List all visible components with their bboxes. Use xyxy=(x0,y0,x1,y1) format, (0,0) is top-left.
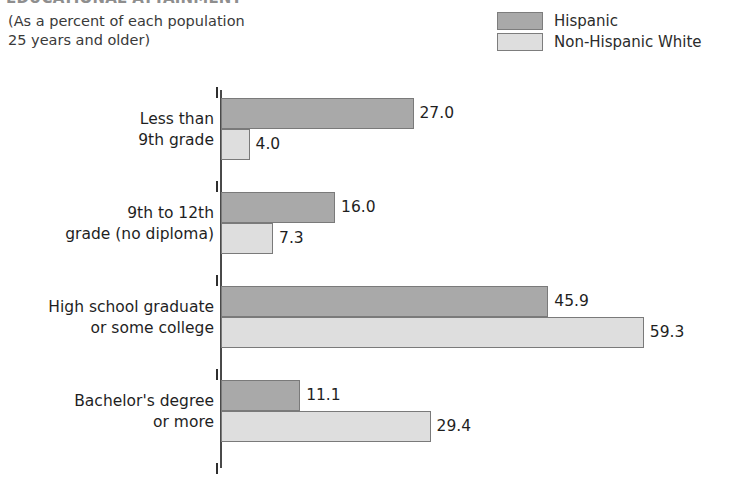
axis-tick xyxy=(216,275,218,286)
bar-0 xyxy=(221,286,548,317)
chart-plot-area: Less than 9th grade27.04.09th to 12th gr… xyxy=(0,0,733,483)
category-label: 9th to 12th grade (no diploma) xyxy=(65,203,214,245)
bar-1 xyxy=(221,317,644,348)
bar-1 xyxy=(221,223,273,254)
category-label: High school graduate or some college xyxy=(48,297,214,339)
bar-0 xyxy=(221,192,335,223)
category-label: Less than 9th grade xyxy=(138,109,214,151)
bar-value-label: 45.9 xyxy=(554,292,589,310)
axis-tick xyxy=(216,181,218,192)
axis-tick xyxy=(216,369,218,380)
bar-value-label: 27.0 xyxy=(420,104,455,122)
bar-value-label: 7.3 xyxy=(279,229,304,247)
bar-value-label: 4.0 xyxy=(256,135,281,153)
axis-tick xyxy=(216,87,218,98)
bar-0 xyxy=(221,98,414,129)
category-label: Bachelor's degree or more xyxy=(74,391,214,433)
bar-value-label: 16.0 xyxy=(341,198,376,216)
bar-1 xyxy=(221,411,431,442)
bar-0 xyxy=(221,380,300,411)
axis-tick xyxy=(216,463,218,474)
bar-value-label: 59.3 xyxy=(650,323,685,341)
bar-value-label: 11.1 xyxy=(306,386,341,404)
bar-value-label: 29.4 xyxy=(437,417,472,435)
bar-1 xyxy=(221,129,250,160)
